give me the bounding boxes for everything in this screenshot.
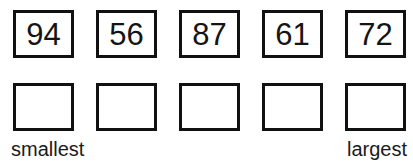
answer-boxes-row [13, 83, 405, 131]
number-cell: 94 [13, 10, 74, 58]
number-cell-value: 56 [109, 19, 143, 50]
scale-labels: smallest largest [11, 136, 407, 162]
answer-box[interactable] [179, 83, 240, 131]
number-cell-value: 87 [192, 19, 226, 50]
number-cell: 61 [262, 10, 323, 58]
answer-box[interactable] [13, 83, 74, 131]
label-smallest: smallest [11, 136, 84, 162]
answer-box[interactable] [345, 83, 406, 131]
number-cell: 56 [96, 10, 157, 58]
label-largest: largest [347, 136, 407, 162]
number-cell: 87 [179, 10, 240, 58]
number-cell-value: 94 [26, 19, 60, 50]
answer-box[interactable] [96, 83, 157, 131]
answer-box[interactable] [262, 83, 323, 131]
given-numbers-row: 94 56 87 61 72 [13, 10, 405, 58]
number-cell-value: 61 [275, 19, 309, 50]
number-cell-value: 72 [358, 19, 392, 50]
number-cell: 72 [345, 10, 406, 58]
ordering-worksheet: 94 56 87 61 72 smallest [0, 0, 413, 166]
